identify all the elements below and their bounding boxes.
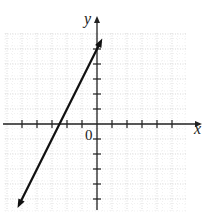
coordinate-plane: x y 0: [0, 0, 204, 214]
origin-label: 0: [85, 127, 93, 143]
x-axis-label: x: [193, 120, 201, 137]
line-arrow-up-icon: [95, 39, 102, 49]
y-axis-arrow-icon: [94, 16, 100, 23]
line-arrow-down-icon: [18, 198, 25, 208]
y-axis-label: y: [82, 10, 92, 28]
